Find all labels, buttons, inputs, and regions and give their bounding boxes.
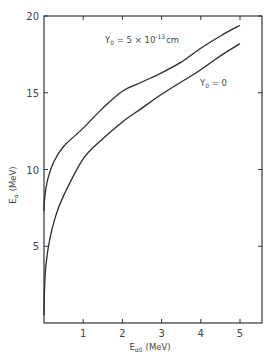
y-tick-label: 10 <box>26 165 39 176</box>
curves <box>44 25 240 315</box>
annotation-lower-curve: Y0 = 0 <box>199 78 227 89</box>
x-tick-label: 1 <box>80 328 86 339</box>
curve-y0-5e-13 <box>44 25 240 211</box>
y-tick-label: 15 <box>26 88 39 99</box>
chart: 123455101520 Eα(MeV) Eα0(MeV) Y0 = 5 × 1… <box>0 0 276 361</box>
y-tick-label: 20 <box>26 11 39 22</box>
y-axis-label: Eα(MeV) <box>8 166 19 203</box>
annotation-upper-curve: Y0 = 5 × 10-13cm <box>104 33 179 46</box>
x-tick-label: 2 <box>119 328 125 339</box>
x-axis-label: Eα0(MeV) <box>129 342 170 353</box>
y-tick-label: 5 <box>33 241 39 252</box>
x-tick-label: 4 <box>198 328 204 339</box>
x-tick-label: 3 <box>158 328 164 339</box>
axis-ticks: 123455101520 <box>26 11 262 339</box>
x-tick-label: 5 <box>237 328 243 339</box>
